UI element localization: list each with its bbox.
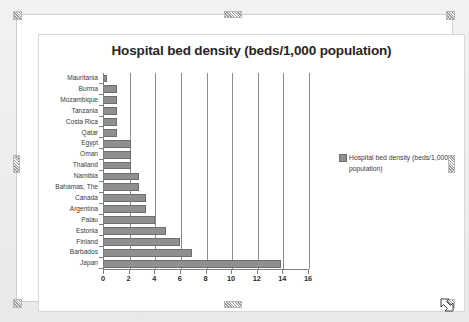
value-tick-label: 2 bbox=[127, 274, 131, 283]
bar[interactable] bbox=[104, 249, 192, 257]
category-axis-labels: MauritaniaBurmaMozambiqueTanzaniaCosta R… bbox=[39, 73, 101, 269]
plot-area[interactable] bbox=[103, 73, 309, 270]
legend-swatch-icon bbox=[339, 154, 347, 162]
bar-row[interactable] bbox=[104, 149, 309, 160]
value-tick-label: 12 bbox=[253, 274, 261, 283]
bar-row[interactable] bbox=[104, 204, 309, 215]
bar[interactable] bbox=[104, 194, 146, 202]
selection-frame[interactable]: Hospital bed density (beds/1,000 populat… bbox=[16, 14, 453, 302]
legend-label: Hospital bed density (beds/1,000 populat… bbox=[349, 153, 461, 174]
chart-object[interactable]: Hospital bed density (beds/1,000 populat… bbox=[38, 34, 465, 312]
value-tick-label: 14 bbox=[278, 274, 286, 283]
bar[interactable] bbox=[104, 238, 180, 246]
bar-row[interactable] bbox=[104, 117, 309, 128]
category-label: Finland bbox=[39, 236, 101, 247]
category-label: Canada bbox=[39, 193, 101, 204]
category-label: Argentina bbox=[39, 204, 101, 215]
bar[interactable] bbox=[104, 107, 117, 115]
bar[interactable] bbox=[104, 216, 155, 224]
value-tick-label: 0 bbox=[101, 274, 105, 283]
category-label: Thailand bbox=[39, 160, 101, 171]
resize-handle-bottom-left[interactable] bbox=[13, 299, 22, 308]
bar[interactable] bbox=[104, 162, 131, 170]
bar[interactable] bbox=[104, 140, 131, 148]
category-label: Costa Rica bbox=[39, 117, 101, 128]
plot-wrapper: MauritaniaBurmaMozambiqueTanzaniaCosta R… bbox=[39, 73, 329, 289]
bar-row[interactable] bbox=[104, 247, 309, 258]
bar-row[interactable] bbox=[104, 171, 309, 182]
bar-row[interactable] bbox=[104, 182, 309, 193]
value-tick-label: 8 bbox=[203, 274, 207, 283]
category-label: Mauritania bbox=[39, 73, 101, 84]
category-label: Qatar bbox=[39, 127, 101, 138]
bar-series[interactable] bbox=[104, 73, 309, 269]
bar-row[interactable] bbox=[104, 84, 309, 95]
bar[interactable] bbox=[104, 227, 166, 235]
chart-legend[interactable]: Hospital bed density (beds/1,000 populat… bbox=[339, 153, 461, 174]
resize-handle-bottom-center[interactable] bbox=[224, 301, 242, 308]
value-tick-label: 6 bbox=[178, 274, 182, 283]
bar[interactable] bbox=[104, 75, 107, 83]
bar-row[interactable] bbox=[104, 225, 309, 236]
category-label: Barbados bbox=[39, 247, 101, 258]
category-label: Bahamas, The bbox=[39, 182, 101, 193]
bar-row[interactable] bbox=[104, 127, 309, 138]
bar-row[interactable] bbox=[104, 73, 309, 84]
resize-handle-middle-right[interactable] bbox=[448, 155, 455, 173]
chart-title: Hospital bed density (beds/1,000 populat… bbox=[39, 43, 464, 58]
bar[interactable] bbox=[104, 260, 281, 268]
resize-handle-top-right[interactable] bbox=[446, 11, 455, 20]
gridline bbox=[309, 73, 310, 269]
bar-row[interactable] bbox=[104, 160, 309, 171]
resize-handle-bottom-right[interactable] bbox=[446, 299, 455, 308]
resize-handle-top-left[interactable] bbox=[13, 11, 22, 20]
bar-row[interactable] bbox=[104, 258, 309, 269]
value-tick-label: 10 bbox=[227, 274, 235, 283]
bar-row[interactable] bbox=[104, 236, 309, 247]
resize-handle-top-center[interactable] bbox=[224, 11, 242, 18]
category-label: Burma bbox=[39, 84, 101, 95]
bar-row[interactable] bbox=[104, 138, 309, 149]
bar[interactable] bbox=[104, 205, 146, 213]
value-axis: 0246810121416 bbox=[103, 270, 308, 286]
category-label: Oman bbox=[39, 149, 101, 160]
category-label: Namibia bbox=[39, 171, 101, 182]
bar-row[interactable] bbox=[104, 215, 309, 226]
category-label: Egypt bbox=[39, 138, 101, 149]
bar-row[interactable] bbox=[104, 95, 309, 106]
bar[interactable] bbox=[104, 85, 117, 93]
category-label: Tanzania bbox=[39, 106, 101, 117]
bar[interactable] bbox=[104, 118, 117, 126]
category-label: Palau bbox=[39, 215, 101, 226]
bar[interactable] bbox=[104, 96, 117, 104]
value-tick-label: 4 bbox=[152, 274, 156, 283]
bar-row[interactable] bbox=[104, 106, 309, 117]
bar[interactable] bbox=[104, 173, 139, 181]
category-label: Estonia bbox=[39, 225, 101, 236]
value-tick-label: 16 bbox=[304, 274, 312, 283]
bar[interactable] bbox=[104, 129, 117, 137]
resize-handle-middle-left[interactable] bbox=[13, 155, 20, 173]
bar[interactable] bbox=[104, 151, 131, 159]
category-label: Japan bbox=[39, 258, 101, 269]
bar-row[interactable] bbox=[104, 193, 309, 204]
bar[interactable] bbox=[104, 183, 139, 191]
category-label: Mozambique bbox=[39, 95, 101, 106]
